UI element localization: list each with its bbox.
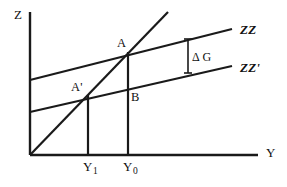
tick-label-y0-base: Y: [123, 159, 133, 174]
delta-g-label: Δ G: [192, 51, 211, 63]
keynesian-cross-figure: Z Y A A' B ZZ ZZ' Δ G Y1 Y0: [0, 0, 287, 187]
tick-label-y1-base: Y: [83, 159, 93, 174]
tick-label-y0: Y0: [123, 160, 138, 174]
z-axis-label: Z: [14, 8, 22, 21]
forty-five-degree-line: [30, 12, 168, 155]
tick-label-y0-subscript: 0: [133, 166, 138, 176]
curve-label-zz-prime: ZZ': [240, 61, 260, 74]
tick-label-y1: Y1: [83, 160, 98, 174]
curve-label-zz: ZZ: [240, 23, 256, 36]
point-label-a-prime: A': [71, 81, 83, 94]
point-label-a: A: [117, 37, 126, 50]
y-axis-label: Y: [266, 146, 276, 159]
point-label-b: B: [131, 91, 140, 104]
tick-label-y1-subscript: 1: [93, 166, 98, 176]
